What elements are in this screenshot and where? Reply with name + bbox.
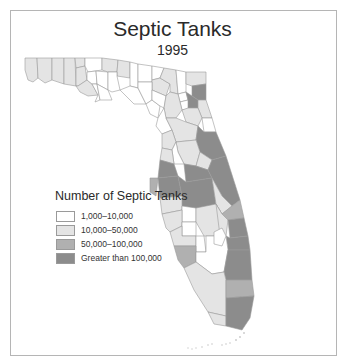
county-madison	[138, 64, 152, 82]
county-glades	[196, 236, 206, 252]
legend-item: 1,000–10,000	[55, 209, 187, 223]
legend-item: 10,000–50,000	[55, 223, 187, 237]
legend-item: 50,000–100,000	[55, 237, 187, 251]
legend-swatch	[56, 225, 75, 236]
county-broward	[226, 280, 254, 298]
legend-label: 10,000–50,000	[81, 225, 138, 235]
legend-swatch	[56, 239, 75, 250]
legend-item: Greater than 100,000	[55, 251, 187, 265]
legend-swatch	[56, 253, 75, 264]
florida-keys	[187, 332, 245, 350]
county-okaloosa	[52, 58, 64, 84]
county-jefferson	[130, 62, 138, 88]
legend-label: 50,000–100,000	[81, 239, 142, 249]
county-santa-rosa	[37, 58, 52, 83]
county-st-lucie	[228, 218, 248, 238]
county-gadsden	[102, 58, 118, 72]
county-palm-beach	[224, 250, 252, 280]
county-jackson	[85, 58, 102, 72]
legend-swatch	[56, 211, 75, 222]
legend-label: Greater than 100,000	[81, 253, 162, 263]
county-miami-dade	[226, 296, 254, 330]
county-walton	[64, 58, 76, 86]
county-escambia	[25, 58, 38, 82]
map-legend: Number of Septic Tanks 1,000–10,000 10,0…	[55, 189, 187, 265]
county-baker	[176, 70, 186, 94]
county-leon	[117, 60, 130, 78]
county-nassau	[186, 72, 206, 86]
county-martin	[226, 236, 250, 250]
florida-county-map	[0, 0, 345, 362]
legend-label: 1,000–10,000	[81, 211, 133, 221]
county-flagler	[202, 118, 216, 132]
legend-title: Number of Septic Tanks	[55, 189, 187, 203]
